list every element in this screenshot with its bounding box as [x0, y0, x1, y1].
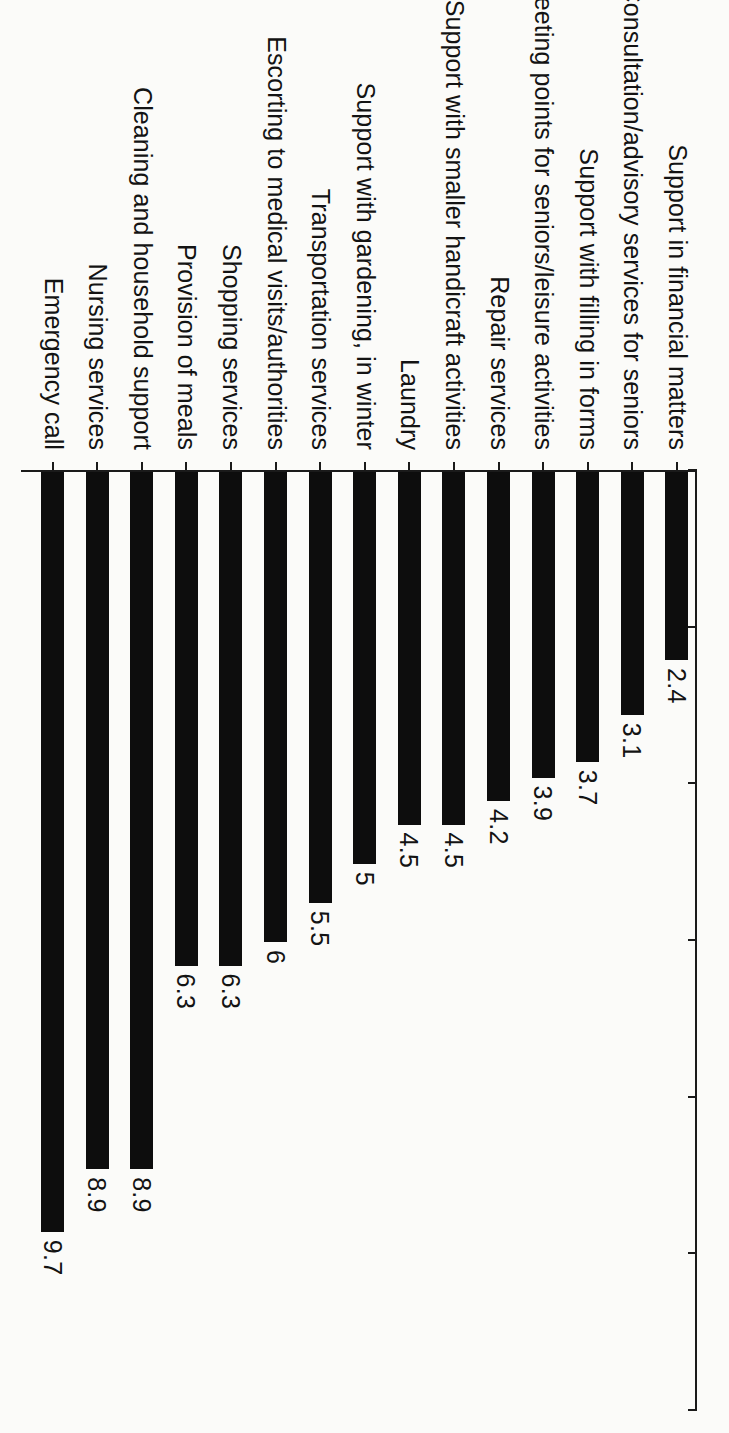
category-axis-tick	[364, 462, 366, 471]
category-axis-label: Transportation services	[306, 189, 335, 450]
category-axis-tick	[185, 462, 187, 471]
bar-value-label: 4.5	[394, 833, 423, 869]
bar-chart-figure: 024681012 2.43.13.73.94.24.54.555.566.36…	[0, 0, 729, 1433]
bar-value-label: 6.3	[171, 974, 200, 1010]
bar-value-label: 5.5	[305, 911, 334, 947]
value-axis-tick	[688, 782, 697, 784]
category-axis-tick	[542, 462, 544, 471]
category-axis-label: Consultation/advisory services for senio…	[618, 0, 647, 450]
bar	[532, 472, 555, 778]
category-axis-label: Shopping services	[217, 244, 246, 450]
category-axis-tick	[587, 462, 589, 471]
value-axis-tick	[688, 1409, 697, 1411]
category-axis-label: Support with filling in forms	[573, 148, 602, 450]
bar-value-label: 8.9	[82, 1177, 111, 1213]
bar	[398, 472, 421, 825]
category-axis-tick	[275, 462, 277, 471]
category-axis-tick	[453, 462, 455, 471]
bar	[175, 472, 198, 966]
category-axis-tick	[141, 462, 143, 471]
value-axis-tick	[688, 939, 697, 941]
category-labels-group: Support in financial mattersConsultation…	[0, 0, 729, 458]
category-axis-label: Escorting to medical visits/authorities	[261, 36, 290, 450]
bar-value-label: 3.1	[617, 723, 646, 759]
bar-value-label: 4.5	[439, 833, 468, 869]
bar-value-label: 2.4	[662, 668, 691, 704]
bar	[264, 472, 287, 942]
bar	[353, 472, 376, 864]
bar	[487, 472, 510, 801]
plot-area: 024681012 2.43.13.73.94.24.54.555.566.36…	[0, 0, 729, 1433]
value-axis-tick	[688, 1252, 697, 1254]
category-axis-label: Provision of meals	[172, 244, 201, 450]
bar-value-label: 8.9	[127, 1177, 156, 1213]
category-axis-label: Repair services	[484, 276, 513, 450]
bar	[130, 472, 153, 1169]
rotated-figure-wrapper: 024681012 2.43.13.73.94.24.54.555.566.36…	[0, 0, 729, 1433]
bar-value-label: 6	[261, 950, 290, 964]
category-axis-label: Nursing services	[83, 264, 112, 450]
bar	[220, 472, 243, 966]
value-axis-tick	[688, 626, 697, 628]
bar	[41, 472, 64, 1232]
category-axis-tick	[319, 462, 321, 471]
category-axis-label: Support with gardening, in winter	[350, 83, 379, 450]
category-axis-label: Laundry	[395, 359, 424, 450]
bar	[443, 472, 466, 825]
category-axis-label: Emergency call	[38, 278, 67, 450]
bar-value-label: 9.7	[38, 1240, 67, 1276]
category-axis-tick	[631, 462, 633, 471]
value-axis-tick	[688, 469, 697, 471]
category-axis-tick	[408, 462, 410, 471]
category-axis-tick	[52, 462, 54, 471]
bar	[86, 472, 109, 1169]
category-axis-label: Support with smaller handicraft activiti…	[440, 0, 469, 450]
category-axis-tick	[230, 462, 232, 471]
bar-value-label: 6.3	[216, 974, 245, 1010]
category-axis-label: Meeting points for seniors/leisure activ…	[529, 0, 558, 450]
bar	[309, 472, 332, 903]
bar-value-label: 3.7	[573, 770, 602, 806]
bar	[621, 472, 644, 715]
bar-value-label: 4.2	[484, 809, 513, 845]
bar	[666, 472, 689, 660]
category-axis-label: Cleaning and household support	[127, 87, 156, 450]
value-axis-tick	[688, 1096, 697, 1098]
bar	[576, 472, 599, 762]
bar-value-label: 5	[350, 872, 379, 886]
category-axis-label: Support in financial matters	[663, 144, 692, 450]
chart-page: 024681012 2.43.13.73.94.24.54.555.566.36…	[0, 0, 729, 1433]
category-axis-tick	[498, 462, 500, 471]
bar-value-label: 3.9	[528, 786, 557, 822]
category-axis-tick	[676, 462, 678, 471]
category-axis-tick	[96, 462, 98, 471]
